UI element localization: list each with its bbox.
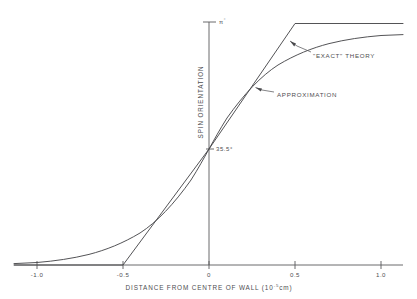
figure-root: -1.0 -0.5 0 0.5 1.0 DISTANCE FROM CENTRE… bbox=[0, 0, 417, 299]
x-tick-label--1.0: -1.0 bbox=[31, 271, 44, 278]
y-axis-title: SPIN ORIENTATION bbox=[197, 66, 204, 139]
annotation-approximation: APPROXIMATION bbox=[277, 91, 337, 98]
annotation-exact-theory: "EXACT" THEORY bbox=[313, 52, 375, 59]
curve-approximation bbox=[14, 24, 403, 266]
x-tick-label-1.0: 1.0 bbox=[376, 271, 386, 278]
x-axis-title: DISTANCE FROM CENTRE OF WALL (10-5cm) bbox=[126, 283, 293, 292]
y-label-pi-degree: ° bbox=[224, 17, 226, 22]
y-label-centre-angle: 35.5° bbox=[216, 146, 233, 152]
x-axis-title-tail: cm) bbox=[279, 284, 292, 292]
approximation-arrow-icon bbox=[256, 88, 263, 92]
y-label-pi: π° bbox=[219, 17, 226, 25]
x-axis-title-main: DISTANCE FROM CENTRE OF WALL (10 bbox=[126, 284, 274, 292]
x-tick-label-0: 0 bbox=[207, 271, 211, 278]
spin-orientation-chart: -1.0 -0.5 0 0.5 1.0 DISTANCE FROM CENTRE… bbox=[0, 0, 417, 299]
exact-theory-arrow-icon bbox=[290, 41, 296, 47]
x-tick-label-0.5: 0.5 bbox=[290, 271, 300, 278]
x-tick-label--0.5: -0.5 bbox=[117, 271, 130, 278]
